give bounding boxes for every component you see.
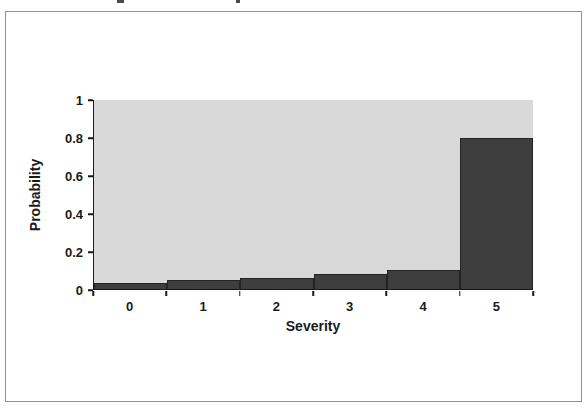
bar-severity-0 <box>94 283 167 289</box>
y-tick-label: 0 <box>76 284 83 297</box>
y-tick-label: 0.4 <box>65 208 83 221</box>
x-tick-mark <box>532 291 534 296</box>
bar-severity-5 <box>460 138 533 289</box>
x-tick-mark <box>92 291 94 296</box>
cropped-text-remnant <box>117 0 124 3</box>
x-tick-mark <box>166 291 168 296</box>
bar-severity-1 <box>167 280 240 289</box>
x-tick-mark <box>312 291 314 296</box>
y-tick-mark <box>88 213 93 215</box>
y-tick-label: 1 <box>76 94 83 107</box>
y-tick-label: 0.6 <box>65 170 83 183</box>
bar-severity-3 <box>314 274 387 289</box>
x-tick-label: 5 <box>493 300 500 313</box>
y-tick-mark <box>88 175 93 177</box>
bar-severity-4 <box>387 270 460 289</box>
y-tick-mark <box>88 99 93 101</box>
plot-area <box>93 100 533 290</box>
x-tick-mark <box>386 291 388 296</box>
x-tick-label: 4 <box>419 300 426 313</box>
x-axis: 012345 <box>93 291 533 319</box>
x-tick-mark <box>459 291 461 296</box>
y-axis: 00.20.40.60.81 <box>38 100 93 290</box>
bar-severity-2 <box>240 278 313 289</box>
y-tick-mark <box>88 137 93 139</box>
x-tick-label: 1 <box>199 300 206 313</box>
y-tick-label: 0.8 <box>65 132 83 145</box>
x-tick-label: 0 <box>126 300 133 313</box>
x-tick-mark <box>239 291 241 296</box>
x-tick-label: 2 <box>273 300 280 313</box>
y-tick-label: 0.2 <box>65 246 83 259</box>
x-axis-title: Severity <box>286 318 340 334</box>
y-tick-mark <box>88 251 93 253</box>
x-tick-label: 3 <box>346 300 353 313</box>
cropped-text-remnant <box>236 0 240 3</box>
